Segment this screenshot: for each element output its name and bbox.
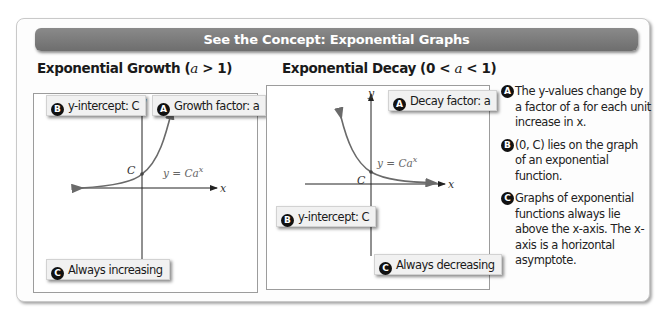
notes-list: AThe y-values change by a factor of a fo… xyxy=(501,84,651,276)
growth-title-var: a xyxy=(190,60,198,76)
growth-title: Exponential Growth (a > 1) xyxy=(37,60,232,76)
callout-text: y-intercept: C xyxy=(68,99,139,113)
badge-a-icon: A xyxy=(501,85,514,98)
note-a: AThe y-values change by a factor of a fo… xyxy=(501,84,651,131)
equation-label: y = Cax xyxy=(376,155,418,169)
decay-title-prefix: Exponential Decay (0 < xyxy=(282,60,454,76)
note-text: The y-values change by a factor of a for… xyxy=(515,84,651,129)
intercept-point xyxy=(369,170,373,174)
callout-growth-factor: AGrowth factor: a xyxy=(152,95,266,116)
decay-title: Exponential Decay (0 < a < 1) xyxy=(282,60,496,76)
callout-y-intercept: By-intercept: C xyxy=(46,95,146,116)
badge-b-icon: B xyxy=(281,214,294,227)
note-b: B(0, C) lies on the graph of an exponent… xyxy=(501,138,651,185)
callout-always-increasing: CAlways increasing xyxy=(46,259,170,280)
growth-title-prefix: Exponential Growth ( xyxy=(37,60,190,76)
badge-c-icon: C xyxy=(51,267,64,280)
callout-text: Always decreasing xyxy=(396,258,495,272)
callout-text: Always increasing xyxy=(68,263,163,277)
decay-title-suffix: < 1) xyxy=(462,60,496,76)
note-text: (0, C) lies on the graph of an exponenti… xyxy=(515,138,638,183)
badge-b-icon: B xyxy=(501,139,514,152)
callout-text: Decay factor: a xyxy=(410,94,490,108)
badge-a-icon: A xyxy=(157,103,170,116)
callout-text: Growth factor: a xyxy=(174,99,259,113)
intercept-label: C xyxy=(357,174,366,187)
note-text: Graphs of exponential functions always l… xyxy=(515,191,644,267)
callout-always-decreasing: CAlways decreasing xyxy=(374,254,502,275)
badge-c-icon: C xyxy=(501,192,514,205)
banner-title: See the Concept: Exponential Graphs xyxy=(35,28,638,51)
x-axis-label: x xyxy=(448,178,455,191)
callout-decay-factor: ADecay factor: a xyxy=(388,90,497,111)
callout-text: y-intercept: C xyxy=(298,210,369,224)
badge-a-icon: A xyxy=(393,98,406,111)
intercept-point xyxy=(140,172,144,176)
callout-y-intercept: By-intercept: C xyxy=(276,206,376,227)
note-c: CGraphs of exponential functions always … xyxy=(501,191,651,269)
growth-title-suffix: > 1) xyxy=(198,60,232,76)
y-axis-label: y xyxy=(367,87,375,100)
decay-curve xyxy=(341,117,435,183)
x-axis-label: x xyxy=(220,182,227,195)
badge-c-icon: C xyxy=(379,262,392,275)
equation-label: y = Cax xyxy=(162,165,204,179)
intercept-label: C xyxy=(127,164,136,177)
badge-b-icon: B xyxy=(51,103,64,116)
decay-title-var: a xyxy=(454,60,462,76)
